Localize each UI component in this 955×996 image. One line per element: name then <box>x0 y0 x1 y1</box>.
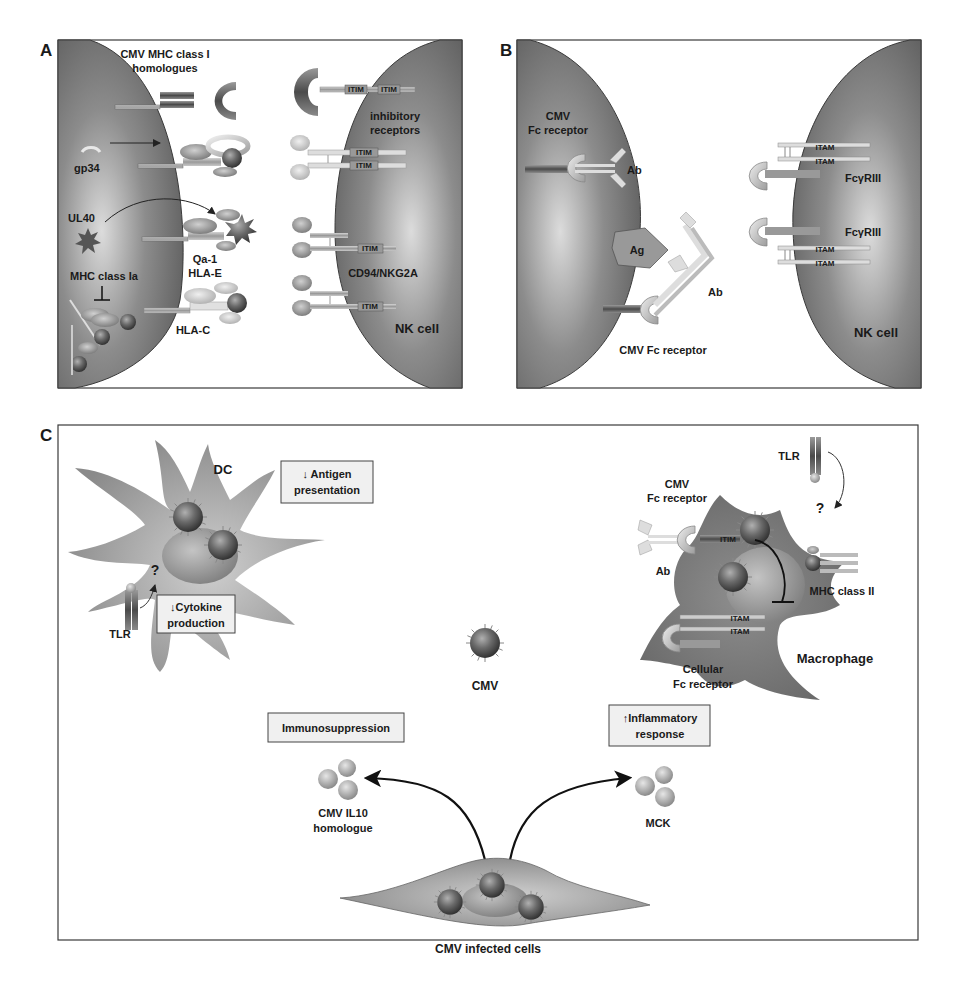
ab-top-label: Ab <box>627 164 642 176</box>
mac-fc-label-line2: Fc receptor <box>647 492 708 504</box>
itam-label: ITAM <box>731 614 750 623</box>
infected-cells-label: CMV infected cells <box>435 942 541 956</box>
itim-label: ITIM <box>381 85 397 94</box>
fcgriii-label-2: FcγRIII <box>845 226 881 238</box>
nk-cell-label-b: NK cell <box>854 325 898 340</box>
macrophage-label: Macrophage <box>797 651 874 666</box>
antigen-presentation-box: ↓ Antigen presentation <box>281 461 373 503</box>
panel-b: B CMV Fc receptor Ab Ag Ab CMV Fc rece <box>500 40 921 388</box>
tlr-dc-label: TLR <box>109 628 130 640</box>
inflammatory-line1: ↑Inflammatory <box>623 712 698 724</box>
receptors-label: receptors <box>370 124 420 136</box>
cmv-mhc-class-i-label: CMV MHC class I <box>120 48 209 60</box>
antigen-presentation-line2: presentation <box>294 484 360 496</box>
cytokine-production-box: ↓Cytokine production <box>157 595 235 633</box>
homologues-label: homologues <box>132 62 197 74</box>
itim-label: ITIM <box>362 244 378 253</box>
il10-label-line1: CMV IL10 <box>318 807 368 819</box>
panel-c-letter: C <box>40 426 52 445</box>
cytokine-line2: production <box>167 617 225 629</box>
panel-b-letter: B <box>500 41 512 60</box>
dc-question-mark: ? <box>151 562 160 578</box>
dc-label: DC <box>214 462 233 477</box>
macrophage-virion-1 <box>736 511 774 549</box>
itam-label: ITAM <box>816 157 835 166</box>
nk-cell-label-a: NK cell <box>395 321 439 336</box>
itim-label: ITIM <box>348 85 364 94</box>
mac-ab-label: Ab <box>656 565 671 577</box>
gp34-label: gp34 <box>74 162 101 174</box>
itim-label: ITIM <box>362 302 378 311</box>
qa1-label: Qa-1 <box>193 253 217 265</box>
itam-label: ITAM <box>816 259 835 268</box>
mac-fc-label-line1: CMV <box>665 478 690 490</box>
infected-virion-1 <box>434 886 466 918</box>
dc-virion-2 <box>204 526 242 564</box>
inflammatory-response-box: ↑Inflammatory response <box>609 705 710 746</box>
itim-label: ITIM <box>720 535 736 544</box>
hla-e-label: HLA-E <box>188 267 222 279</box>
inflammatory-line2: response <box>636 728 685 740</box>
itam-label: ITAM <box>731 627 750 636</box>
antigen-presentation-line1: ↓ Antigen <box>302 468 351 480</box>
itam-label: ITAM <box>816 143 835 152</box>
immunosuppression-box: Immunosuppression <box>268 713 404 742</box>
ul40-label: UL40 <box>68 212 95 224</box>
cellular-fc-label-line2: Fc receptor <box>673 678 734 690</box>
mhc-class-ii-label: MHC class II <box>810 585 875 597</box>
panel-c: C DC ↓ Antigen presentation ? TLR ↓Cytok… <box>40 425 918 956</box>
hla-c-label: HLA-C <box>176 324 210 336</box>
tlr-macrophage-label: TLR <box>778 450 799 462</box>
fcgriii-label-1: FcγRIII <box>845 172 881 184</box>
ab-bottom-label: Ab <box>708 286 723 298</box>
itim-label: ITIM <box>356 148 372 157</box>
cmv-fc-label-line2: Fc receptor <box>528 124 589 136</box>
infected-virion-2 <box>476 869 508 901</box>
il10-label-line2: homologue <box>313 822 372 834</box>
cd94-nkg2a-label: CD94/NKG2A <box>348 267 418 279</box>
itim-label: ITIM <box>356 161 372 170</box>
mhc-class-ia-label: MHC class Ia <box>70 270 139 282</box>
cmv-fc-bottom-label: CMV Fc receptor <box>619 344 707 356</box>
macrophage-virion-2 <box>714 558 752 596</box>
panel-a: A CMV MHC class I homologues gp34 UL40 <box>40 40 462 388</box>
cmv-label: CMV <box>472 679 499 693</box>
itam-label: ITAM <box>816 245 835 254</box>
cmv-fc-label-line1: CMV <box>546 110 571 122</box>
cytokine-line1: ↓Cytokine <box>170 601 222 613</box>
ag-label: Ag <box>630 244 645 256</box>
panel-a-letter: A <box>40 41 52 60</box>
figure-canvas: A CMV MHC class I homologues gp34 UL40 <box>0 0 955 996</box>
infected-virion-3 <box>515 891 547 923</box>
mck-label: MCK <box>645 817 670 829</box>
inhibitory-label: inhibitory <box>370 110 421 122</box>
cmv-virion <box>466 624 504 662</box>
macrophage-question-mark: ? <box>816 500 825 516</box>
immunosuppression-label: Immunosuppression <box>282 722 390 734</box>
dc-virion-1 <box>169 498 207 536</box>
cellular-fc-label-line1: Cellular <box>683 663 724 675</box>
